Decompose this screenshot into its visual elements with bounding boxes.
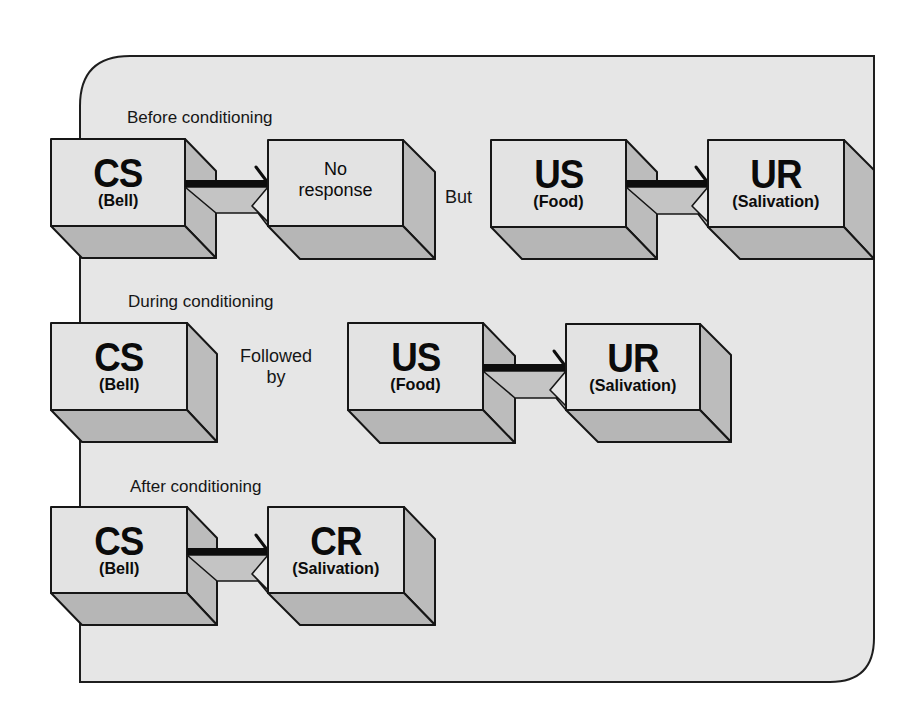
box-sub: (Salivation) — [589, 376, 676, 395]
box-sub: (Salivation) — [732, 192, 819, 211]
box-abbr: US — [534, 156, 583, 192]
box-sub: (Bell) — [99, 375, 139, 394]
box-label-us-during: US (Food) — [348, 323, 483, 410]
box-abbr: CR — [310, 523, 361, 559]
box-abbr: CS — [93, 155, 142, 191]
box-sub: (Food) — [533, 192, 583, 211]
box-label-ur-before: UR (Salivation) — [708, 140, 844, 227]
section-title-during: During conditioning — [128, 292, 274, 312]
box-sub: (Food) — [390, 375, 440, 394]
connector-word-but: But — [445, 187, 472, 208]
box-abbr: UR — [750, 156, 801, 192]
box-sub: (Bell) — [99, 559, 139, 578]
box-label-cs-before: CS (Bell) — [51, 139, 185, 226]
box-abbr: US — [391, 339, 440, 375]
box-abbr: CS — [94, 339, 143, 375]
section-title-before: Before conditioning — [127, 108, 273, 128]
box-sub: (Salivation) — [292, 559, 379, 578]
box-sub: (Bell) — [98, 191, 138, 210]
connector-line1: Followed — [236, 346, 316, 367]
box-label-us-before: US (Food) — [491, 140, 626, 227]
box-text-line2: response — [298, 180, 372, 201]
connector-followed-by: Followed by — [236, 346, 316, 388]
box-abbr: CS — [94, 523, 143, 559]
box-label-ur-during: UR (Salivation) — [566, 324, 700, 410]
box-label-cr-after: CR (Salivation) — [268, 507, 404, 593]
connector-line2: by — [236, 367, 316, 388]
box-text-line1: No — [324, 159, 347, 180]
box-label-cs-during: CS (Bell) — [51, 323, 187, 410]
box-abbr: UR — [607, 340, 658, 376]
box-label-no-response: No response — [268, 140, 403, 220]
section-title-after: After conditioning — [130, 477, 261, 497]
box-label-cs-after: CS (Bell) — [51, 507, 187, 593]
